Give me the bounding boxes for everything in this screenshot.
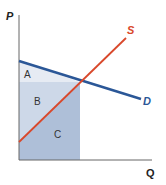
area-c-label: C [54,129,61,140]
area-b-label: B [34,96,41,107]
area-a-label: A [24,69,31,80]
x-axis-label: Q [146,167,155,179]
surplus-diagram [0,0,166,185]
supply-label: S [127,24,134,36]
y-axis-label: P [6,10,13,22]
demand-label: D [143,95,151,107]
